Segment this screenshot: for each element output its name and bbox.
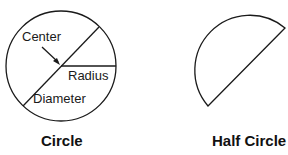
radius-label: Radius <box>68 68 109 83</box>
half-circle-figure <box>195 15 285 106</box>
half-circle-title: Half Circle <box>212 132 286 149</box>
center-label: Center <box>22 29 62 44</box>
half-circle-outline <box>195 15 285 106</box>
shapes-diagram: Center Radius Diameter Circle Half Circl… <box>0 0 288 155</box>
diameter-label: Diameter <box>33 91 86 106</box>
circle-title: Circle <box>41 132 83 149</box>
circle-figure: Center Radius Diameter <box>6 11 116 121</box>
